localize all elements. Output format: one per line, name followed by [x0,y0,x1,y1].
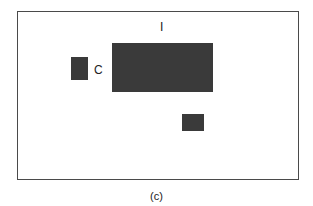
block-c [71,57,88,80]
diagram-frame [17,11,299,180]
label-c: C [94,64,103,76]
figure-caption: (c) [0,191,313,202]
label-i: I [160,21,163,33]
block-i [112,43,213,92]
block-unlabeled [182,114,204,131]
